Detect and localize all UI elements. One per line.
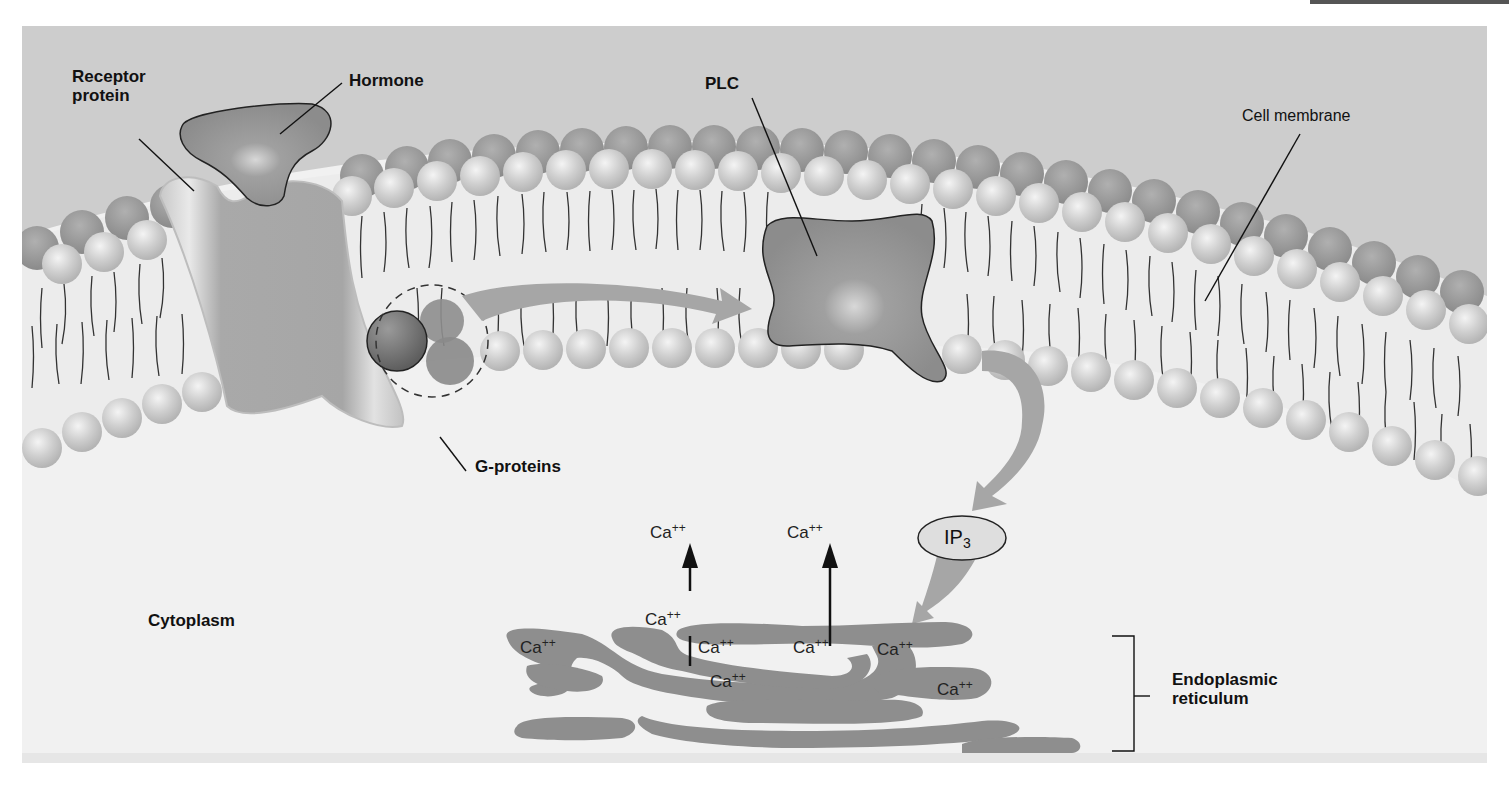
calcium-symbol: Ca — [710, 672, 732, 691]
calcium-ion-label-released-right: Ca++ — [787, 521, 823, 543]
calcium-charge: ++ — [899, 638, 913, 652]
diagram-canvas — [22, 26, 1487, 753]
ip3-production-arrow — [972, 351, 1045, 511]
calcium-ion-label-er-ca-2: Ca++ — [645, 608, 681, 630]
calcium-symbol: Ca — [698, 638, 720, 657]
calcium-charge: ++ — [809, 521, 823, 535]
calcium-symbol: Ca — [650, 523, 672, 542]
top-edge-bar — [1310, 0, 1509, 4]
signal-transduction-diagram: Receptor protein Hormone PLC Cell membra… — [22, 26, 1487, 753]
calcium-ion-label-released-left: Ca++ — [650, 521, 686, 543]
calcium-ion-label-er-ca-3: Ca++ — [698, 636, 734, 658]
calcium-ion-label-er-ca-5: Ca++ — [877, 638, 913, 660]
calcium-symbol: Ca — [793, 638, 815, 657]
cell-membrane-label: Cell membrane — [1242, 107, 1350, 125]
ip3-to-er-arrow — [912, 556, 977, 624]
ip3-base: IP — [944, 526, 963, 548]
ip3-label: IP3 — [944, 526, 971, 551]
calcium-ion-label-er-ca-1: Ca++ — [520, 636, 556, 658]
ip3-subscript: 3 — [963, 535, 971, 551]
calcium-charge: ++ — [720, 636, 734, 650]
calcium-charge: ++ — [815, 636, 829, 650]
calcium-ion-label-er-ca-4: Ca++ — [793, 636, 829, 658]
calcium-charge: ++ — [667, 608, 681, 622]
calcium-charge: ++ — [732, 670, 746, 684]
cytoplasm-label: Cytoplasm — [148, 612, 235, 631]
calcium-ion-label-er-ca-6: Ca++ — [710, 670, 746, 692]
hormone-label: Hormone — [349, 72, 424, 91]
calcium-symbol: Ca — [877, 640, 899, 659]
calcium-symbol: Ca — [937, 680, 959, 699]
calcium-symbol: Ca — [645, 610, 667, 629]
receptor-label-line1: Receptor — [72, 68, 146, 87]
calcium-charge: ++ — [542, 636, 556, 650]
receptor-label-line2: protein — [72, 87, 146, 106]
g-proteins-label: G-proteins — [475, 458, 561, 477]
er-label-line2: reticulum — [1172, 690, 1278, 709]
endoplasmic-reticulum-label: Endoplasmic reticulum — [1172, 671, 1278, 708]
receptor-protein-label: Receptor protein — [72, 68, 146, 105]
calcium-charge: ++ — [672, 521, 686, 535]
plc-label: PLC — [705, 75, 739, 94]
calcium-ion-label-er-ca-7: Ca++ — [937, 678, 973, 700]
bottom-strip — [22, 753, 1487, 763]
er-label-line1: Endoplasmic — [1172, 671, 1278, 690]
calcium-charge: ++ — [959, 678, 973, 692]
calcium-symbol: Ca — [787, 523, 809, 542]
calcium-symbol: Ca — [520, 638, 542, 657]
